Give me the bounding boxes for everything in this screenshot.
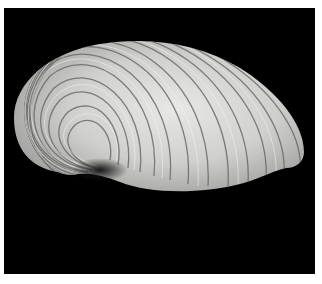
shell	[14, 31, 304, 191]
umbo-shadow	[72, 158, 128, 182]
shell-image	[0, 0, 322, 284]
